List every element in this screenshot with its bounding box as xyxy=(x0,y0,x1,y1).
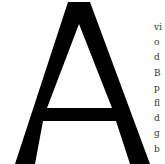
text-line: b xyxy=(154,142,165,157)
text-line: d xyxy=(154,50,165,65)
type-specimen: vi o d B p fl d g b xyxy=(0,0,165,164)
text-line: o xyxy=(154,35,165,50)
text-line: g xyxy=(154,126,165,141)
large-letter-a-glyph xyxy=(0,0,165,164)
text-line: d xyxy=(154,111,165,126)
text-line: B xyxy=(154,66,165,81)
body-text-column: vi o d B p fl d g b xyxy=(154,20,165,157)
text-line: fl xyxy=(154,96,165,111)
text-line: vi xyxy=(154,20,165,35)
text-line: p xyxy=(154,81,165,96)
